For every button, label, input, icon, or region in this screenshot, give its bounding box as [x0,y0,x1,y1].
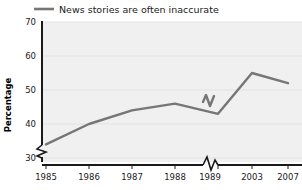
y-tick-label: 70 [25,17,36,27]
x-tick-label: 1985 [35,172,57,182]
legend-entry-label: News stories are often inaccurate [59,4,219,15]
x-tick-label: 1986 [78,172,100,182]
chart-container: News stories are often inaccurate 70 60 … [0,0,302,190]
y-tick-label: 30 [25,153,36,163]
x-tick-label: 2007 [277,172,299,182]
line-chart: News stories are often inaccurate 70 60 … [0,0,302,190]
y-tick-labels: 70 60 50 40 30 [25,17,36,163]
x-tick-label: 2003 [241,172,263,182]
x-tick-labels: 1985 1986 1987 1988 1989 2003 2007 [35,172,299,182]
chart-legend: News stories are often inaccurate [34,4,219,15]
y-tick-label: 60 [25,51,36,61]
y-axis-title: Percentage [3,77,13,132]
plot-background [42,22,302,162]
y-tick-label: 50 [25,85,36,95]
x-tick-label: 1987 [121,172,143,182]
y-tick-label: 40 [25,119,36,129]
x-tick-label: 1989 [199,172,221,182]
x-tick-label: 1988 [164,172,186,182]
